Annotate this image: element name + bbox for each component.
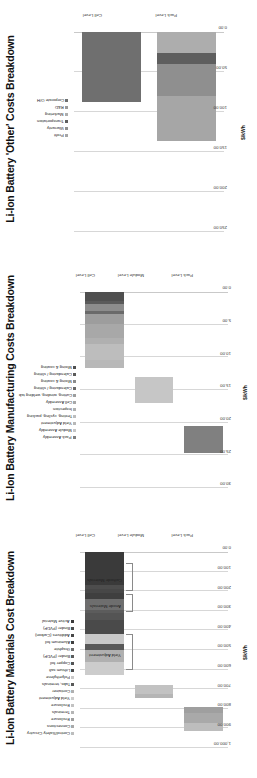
category-label: Pack Level xyxy=(155,13,176,18)
bar-group xyxy=(135,377,173,403)
legend-item: Pack Assembly xyxy=(43,435,76,440)
axis-tick-label: 300.00 xyxy=(218,604,231,609)
axis-tick-label: 1,000.00 xyxy=(214,741,231,746)
legend-label: Inspection xyxy=(53,407,72,412)
axis-tick-label: 50.00 xyxy=(216,65,227,70)
legend-swatch-icon xyxy=(71,690,74,693)
bar-segment xyxy=(85,304,123,311)
axis-tick-label: 200.00 xyxy=(218,585,231,590)
legend-label: Cell Assembly xyxy=(46,400,72,405)
legend-swatch-icon xyxy=(65,113,68,116)
category-label: Pack Level xyxy=(172,273,193,278)
legend-swatch-icon xyxy=(71,704,74,707)
legend-item: Enclosure xyxy=(51,717,74,722)
chart-other-plot xyxy=(74,32,224,232)
legend-label: Terminals xyxy=(52,710,70,715)
legend-item: Enclosure xyxy=(51,703,74,708)
legend-item: Aluminum foil xyxy=(45,640,74,645)
annotation-bracket xyxy=(126,634,133,670)
bar-segment xyxy=(85,324,123,338)
legend-item: Tabs, terminals xyxy=(42,682,74,687)
bar-segment xyxy=(85,301,123,304)
axis-tick-label: 25.00 xyxy=(220,449,231,454)
axis-tick-label: 150.00 xyxy=(214,145,227,150)
annotation-label: Anode Materials xyxy=(86,603,124,608)
axis-tick-label: 250.00 xyxy=(214,225,227,230)
axis-tick-label: 200.00 xyxy=(214,185,227,190)
legend-swatch-icon xyxy=(71,634,74,637)
gridline xyxy=(74,191,224,192)
legend-swatch-icon xyxy=(71,648,74,651)
chart-manufacturing-costs: Li-Ion Battery Manufacturing Costs Break… xyxy=(0,258,257,518)
chart-other-costs: Li-Ion Battery 'Other' Costs Breakdown P… xyxy=(0,0,257,258)
bar-segment xyxy=(82,32,141,102)
axis-tick-label: 400.00 xyxy=(218,624,231,629)
legend-swatch-icon xyxy=(71,725,74,728)
bar-segment xyxy=(85,662,123,676)
bar-segment xyxy=(85,634,123,644)
axis-tick-label: 0.00 xyxy=(222,285,231,290)
legend-swatch-icon xyxy=(71,711,74,714)
axis-tick-label: 500.00 xyxy=(218,643,231,648)
gridline xyxy=(80,487,228,488)
bar-group xyxy=(85,292,123,368)
legend-item: Module Assembly xyxy=(39,428,76,433)
legend-swatch-icon xyxy=(65,99,68,102)
category-label: Cell Level xyxy=(82,13,101,18)
legend-item: Graphite xyxy=(54,647,74,652)
legend-item: Corporate O/H xyxy=(37,98,68,103)
legend-label: Mixing & coating xyxy=(41,379,72,384)
chart-other-title: Li-Ion Battery 'Other' Costs Breakdown xyxy=(4,0,16,258)
axis-tick-label: 0.00 xyxy=(222,545,231,550)
bar-group xyxy=(82,32,141,102)
bar-segment xyxy=(135,377,173,403)
bar-segment xyxy=(85,338,123,344)
legend-label: Testing, cycling, packing xyxy=(27,414,72,419)
axis-tick-label: 5.00 xyxy=(222,318,231,323)
legend-item: Container xyxy=(52,689,74,694)
legend-swatch-icon xyxy=(71,718,74,721)
legend-item: Calendaring / slitting xyxy=(34,386,76,391)
legend-swatch-icon xyxy=(71,732,74,735)
legend-item: Inspection xyxy=(53,407,76,412)
legend-label: Lithium salt xyxy=(49,668,70,673)
bar-segment xyxy=(85,292,123,300)
legend-item: Yield Adjustment xyxy=(39,696,74,701)
bar-segment xyxy=(85,360,123,368)
axis-tick-label: 20.00 xyxy=(220,416,231,421)
bar-segment xyxy=(85,311,123,314)
bar-segment xyxy=(135,685,173,694)
legend-item: Transportation xyxy=(37,119,68,124)
axis-tick-label: 0.00 xyxy=(218,25,227,30)
legend-label: Polyethylene xyxy=(46,675,70,680)
legend-swatch-icon xyxy=(71,620,74,623)
legend-swatch-icon xyxy=(71,676,74,679)
legend-item: Lithium salt xyxy=(49,668,74,673)
bar-segment xyxy=(184,426,222,453)
legend-item: Marketing xyxy=(45,112,68,117)
legend-label: Enclosure xyxy=(51,717,70,722)
legend-swatch-icon xyxy=(71,662,74,665)
legend-swatch-icon xyxy=(73,387,76,390)
axis-tick-label: 100.00 xyxy=(218,565,231,570)
legend-item: Cell Assembly xyxy=(46,400,76,405)
chart-other-axis-title: $/kWh xyxy=(240,125,246,140)
legend-item: Additives (Carbon) xyxy=(35,633,74,638)
bar-group xyxy=(157,32,216,141)
legend-label: Calendaring / slitting xyxy=(34,386,72,391)
legend-item: R&D xyxy=(55,105,68,110)
legend-item: Control/Safety Circuitry xyxy=(27,731,74,736)
bar-group xyxy=(184,707,222,732)
legend-item: Testing, cycling, packing xyxy=(27,414,76,419)
chart-materials-legend: Control/Safety CircuitryConnectionsEnclo… xyxy=(14,617,74,736)
legend-label: Graphite xyxy=(54,647,70,652)
bar-group xyxy=(135,685,173,698)
bar-segment xyxy=(157,64,216,96)
axis-tick-label: 10.00 xyxy=(220,351,231,356)
bar-segment xyxy=(135,694,173,698)
legend-swatch-icon xyxy=(73,366,76,369)
charts-page: Li-Ion Battery 'Other' Costs Breakdown P… xyxy=(0,0,257,778)
legend-item: Terminals xyxy=(52,710,74,715)
legend-swatch-icon xyxy=(65,120,68,123)
legend-item: Polyethylene xyxy=(46,675,74,680)
